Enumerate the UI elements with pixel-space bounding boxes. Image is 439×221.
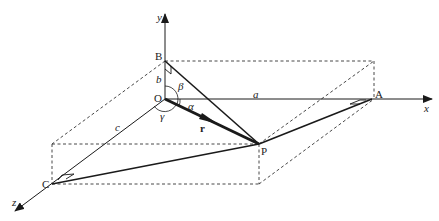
angle-beta-label: β xyxy=(177,80,184,92)
point-p-label: P xyxy=(261,145,267,157)
length-a-label: a xyxy=(253,88,259,100)
length-b-label: b xyxy=(156,73,162,85)
origin-label: O xyxy=(154,92,162,104)
point-b-label: B xyxy=(155,50,162,62)
z-axis-label: z xyxy=(11,196,17,208)
z-axis xyxy=(15,99,165,211)
point-a-label: A xyxy=(375,88,383,100)
angle-alpha-label: α xyxy=(188,100,194,112)
angle-gamma-label: γ xyxy=(160,110,165,122)
length-c-label: c xyxy=(115,121,120,133)
diagram: y x z B O A C P b a c β α γ r xyxy=(0,0,439,221)
vector-r-label: r xyxy=(200,122,205,134)
y-axis-label: y xyxy=(156,11,162,23)
x-axis-label: x xyxy=(423,102,429,114)
direction-cosines-diagram: y x z B O A C P b a c β α γ r xyxy=(0,0,439,221)
point-c-label: C xyxy=(42,178,49,190)
